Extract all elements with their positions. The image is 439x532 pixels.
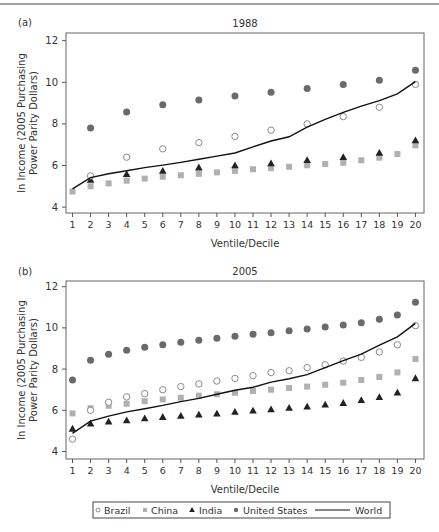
data-point [340, 81, 347, 88]
x-tick-label: 4 [124, 219, 130, 230]
data-point [160, 174, 166, 180]
plot-area [66, 33, 424, 213]
data-point [376, 374, 382, 380]
data-point [196, 381, 202, 387]
data-point [304, 325, 311, 332]
data-point [250, 331, 257, 338]
data-point [123, 109, 130, 116]
x-tick-label: 8 [196, 465, 202, 476]
filled-circle-icon [234, 508, 238, 512]
x-tick-label: 20 [409, 219, 421, 230]
series-layer [69, 299, 420, 442]
y-tick-label: 8 [52, 364, 58, 375]
x-tick-label: 7 [178, 219, 184, 230]
data-point [87, 357, 94, 364]
data-point [339, 153, 347, 160]
x-tick-label: 2 [88, 219, 94, 230]
data-point [70, 410, 76, 416]
data-point [268, 329, 275, 336]
data-point [286, 368, 292, 374]
data-point [160, 396, 166, 402]
data-point [394, 342, 400, 348]
x-tick-label: 7 [178, 465, 184, 476]
y-tick-label: 8 [52, 118, 58, 129]
x-tick-label: 15 [319, 465, 331, 476]
panel-b: (b) 2005 ln Income (2005 Purchasing Powe… [16, 266, 424, 495]
data-point [250, 372, 256, 378]
data-point [303, 156, 311, 163]
data-point [394, 311, 401, 318]
data-point [376, 316, 383, 323]
data-point [123, 154, 129, 160]
data-point [195, 411, 203, 418]
data-point [195, 96, 202, 103]
series-china [70, 356, 419, 416]
data-point [124, 178, 130, 184]
data-point [213, 335, 220, 342]
panel-label: (b) [18, 266, 32, 277]
data-point [124, 401, 130, 407]
data-point [88, 183, 94, 189]
data-point [340, 380, 346, 386]
x-tick-label: 6 [160, 219, 166, 230]
x-tick-label: 16 [337, 465, 349, 476]
data-point [304, 85, 311, 92]
data-point [376, 349, 382, 355]
x-tick-label: 20 [409, 465, 421, 476]
series-united-states [87, 67, 419, 132]
data-point [322, 382, 328, 388]
data-point [69, 436, 75, 442]
x-tick-label: 16 [337, 219, 349, 230]
y-axis-label-line1: ln Income (2005 Purchasing [16, 300, 27, 440]
data-point [159, 413, 167, 420]
legend: BrazilChinaIndiaUnited StatesWorld [93, 502, 390, 518]
legend-label: India [199, 505, 222, 516]
x-tick-label: 17 [355, 219, 367, 230]
data-point [322, 161, 328, 167]
x-axis: 1234567891011121314151617181920 [69, 459, 421, 476]
y-axis-label: ln Income (2005 Purchasing Power Parity … [16, 53, 39, 193]
x-tick-label: 18 [373, 465, 385, 476]
y-axis-label-line1: ln Income (2005 Purchasing [16, 53, 27, 193]
y-tick-label: 4 [52, 202, 58, 213]
y-tick-label: 10 [45, 322, 58, 333]
data-point [268, 127, 274, 133]
data-point [159, 341, 166, 348]
data-point [123, 394, 129, 400]
legend-item-united-states: United States [234, 505, 308, 516]
x-tick-label: 15 [319, 219, 331, 230]
x-tick-label: 1 [69, 465, 75, 476]
data-point [142, 176, 148, 182]
data-point [267, 159, 275, 166]
panel-a: (a) 1988 ln Income (2005 Purchasing Powe… [16, 17, 424, 249]
data-point [268, 369, 274, 375]
x-tick-label: 13 [283, 465, 295, 476]
data-point [231, 333, 238, 340]
data-point [123, 347, 130, 354]
data-point [141, 415, 149, 422]
data-point [69, 377, 76, 384]
data-point [196, 139, 202, 145]
x-tick-label: 9 [214, 465, 220, 476]
data-point [195, 164, 203, 171]
x-tick-label: 10 [229, 465, 241, 476]
x-tick-label: 11 [247, 465, 259, 476]
data-point [232, 133, 238, 139]
y-tick-label: 12 [45, 281, 58, 292]
data-point [339, 399, 347, 406]
data-point [321, 401, 329, 408]
series-united-states [69, 299, 419, 384]
x-tick-label: 6 [160, 465, 166, 476]
series-india [69, 374, 420, 431]
data-point [213, 410, 221, 417]
panel-title: 1988 [232, 18, 257, 29]
y-axis-label: ln Income (2005 Purchasing Power Parity … [16, 300, 39, 440]
series-india [87, 137, 420, 183]
data-point [178, 383, 184, 389]
y-tick-label: 6 [52, 160, 58, 171]
data-point [87, 125, 94, 132]
data-point [123, 416, 131, 423]
data-point [70, 189, 76, 195]
x-tick-label: 19 [391, 219, 403, 230]
series-brazil [69, 322, 418, 442]
